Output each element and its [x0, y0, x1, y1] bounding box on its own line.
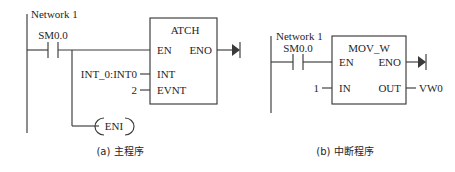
pin-b-in: IN	[339, 83, 351, 94]
caption-panel-b: (b) 中断程序	[316, 147, 373, 158]
operand-a-evnt: 2	[132, 85, 138, 96]
caption-a-text: (a) 主程序	[96, 146, 143, 157]
contact-label-a: SM0.0	[38, 30, 68, 41]
operand-a-int: INT_0:INT0	[81, 69, 137, 80]
pin-b-en: EN	[339, 57, 354, 68]
network-label-b: Network 1	[276, 31, 323, 42]
pin-a-eno: ENO	[189, 45, 212, 56]
pin-a-en: EN	[157, 45, 172, 56]
block-name-movw: MOV_W	[348, 43, 390, 54]
network-label-a: Network 1	[31, 9, 78, 20]
caption-panel-a: (a) 主程序	[96, 147, 143, 158]
pin-a-int: INT	[157, 69, 175, 80]
eno-b-arrowhead	[418, 56, 426, 68]
pin-b-eno: ENO	[378, 57, 401, 68]
operand-b-in: 1	[314, 83, 320, 94]
coil-label-eni: ENI	[105, 121, 123, 132]
pin-a-evnt: EVNT	[157, 85, 186, 96]
contact-label-b: SM0.0	[283, 43, 313, 54]
eno-a-arrowhead	[232, 44, 240, 56]
operand-b-out: VW0	[419, 83, 443, 94]
block-name-atch: ATCH	[171, 25, 200, 36]
pin-b-out: OUT	[378, 83, 401, 94]
coil-a-right-arc	[125, 118, 134, 135]
caption-b-text: (b) 中断程序	[316, 146, 373, 157]
ladder-diagram-figure: Network 1 SM0.0 ENI INT_0:INT0 2 ATCH EN…	[0, 0, 455, 172]
